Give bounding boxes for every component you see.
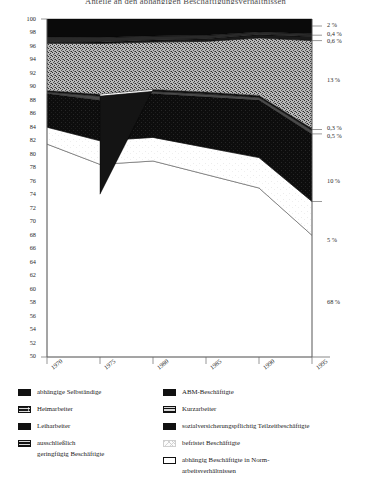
legend-swatch-kurzarbeiter bbox=[163, 406, 176, 413]
y-tick-label: 100 bbox=[14, 16, 36, 22]
legend-item-abhaengige-selbstaendige: abhängige Selbständige bbox=[18, 386, 168, 403]
value-label-normarbeit: 68 % bbox=[327, 299, 340, 305]
legend-label: ausschließlich bbox=[37, 437, 76, 448]
legend-item-normarbeitsverhaeltnisse: abhängig Beschäftigte in Norm- arbeitsve… bbox=[163, 454, 368, 482]
y-tick-label: 68 bbox=[14, 232, 36, 238]
y-tick-label: 60 bbox=[14, 286, 36, 292]
legend-swatch-teilzeitbeschaeftigte bbox=[163, 423, 176, 430]
legend-swatch-abm-beschaeftigte bbox=[163, 389, 176, 396]
legend-item-leiharbeiter: Leiharbeiter bbox=[18, 420, 168, 437]
y-tick-label: 58 bbox=[14, 299, 36, 305]
y-tick-label: 86 bbox=[14, 110, 36, 116]
legend-swatch-normarbeitsverhaeltnisse bbox=[163, 457, 176, 464]
legend-label: befristet Beschäftigte bbox=[182, 437, 240, 448]
legend-item-kurzarbeiter: Kurzarbeiter bbox=[163, 403, 368, 420]
legend-item-befristet-beschaeftigte: befristet Beschäftigte bbox=[163, 437, 368, 454]
legend-swatch-heimarbeiter bbox=[18, 406, 31, 413]
y-tick-label: 90 bbox=[14, 83, 36, 89]
y-tick-label: 62 bbox=[14, 272, 36, 278]
legend-swatch-befristet-beschaeftigte bbox=[163, 440, 176, 447]
y-tick-label: 64 bbox=[14, 259, 36, 265]
y-tick-label: 70 bbox=[14, 218, 36, 224]
legend-swatch-abhaengige-selbstaendige bbox=[18, 389, 31, 396]
y-tick-label: 80 bbox=[14, 151, 36, 157]
legend-label: abhängig Beschäftigte in Norm- bbox=[182, 454, 269, 465]
y-tick-label: 98 bbox=[14, 29, 36, 35]
y-tick-label: 54 bbox=[14, 326, 36, 332]
value-label-kurzarbeiter: 0,5 % bbox=[327, 133, 342, 139]
legend-label-cont: arbeitsverhältnissen bbox=[182, 465, 236, 476]
y-tick-label: 94 bbox=[14, 56, 36, 62]
legend-column-left: abhängige Selbständige Heimarbeiter Leih… bbox=[18, 386, 168, 465]
legend-label: sozialversicherungspflichtig Teilzeitbes… bbox=[182, 420, 309, 431]
legend-item-heimarbeiter: Heimarbeiter bbox=[18, 403, 168, 420]
legend-item-teilzeitbeschaeftigte: sozialversicherungspflichtig Teilzeitbes… bbox=[163, 420, 368, 437]
chart-plot-area: 100 98 96 94 92 90 88 86 84 82 80 78 76 … bbox=[0, 0, 371, 380]
chart-legend: abhängige Selbständige Heimarbeiter Leih… bbox=[0, 386, 371, 488]
value-label-leiharbeiter: 0,6 % bbox=[327, 38, 342, 44]
legend-label: Leiharbeiter bbox=[37, 420, 70, 431]
stacked-area-svg bbox=[0, 0, 371, 380]
legend-item-abm-beschaeftigte: ABM-Beschäftigte bbox=[163, 386, 368, 403]
y-tick-label: 88 bbox=[14, 97, 36, 103]
y-tick-label: 52 bbox=[14, 340, 36, 346]
y-tick-label: 50 bbox=[14, 353, 36, 359]
y-tick-label: 78 bbox=[14, 164, 36, 170]
legend-column-right: ABM-Beschäftigte Kurzarbeiter sozialvers… bbox=[163, 386, 368, 482]
y-tick-label: 92 bbox=[14, 70, 36, 76]
y-tick-label: 84 bbox=[14, 124, 36, 130]
legend-label: ABM-Beschäftigte bbox=[182, 386, 234, 397]
legend-swatch-leiharbeiter bbox=[18, 423, 31, 430]
value-label-selbstaendige: 2 % bbox=[327, 22, 337, 28]
y-tick-label: 66 bbox=[14, 245, 36, 251]
legend-label-cont: geringfügig Beschäftigte bbox=[37, 448, 104, 459]
legend-label: Heimarbeiter bbox=[37, 403, 73, 414]
legend-label: Kurzarbeiter bbox=[182, 403, 216, 414]
y-tick-label: 96 bbox=[14, 43, 36, 49]
y-tick-label: 72 bbox=[14, 205, 36, 211]
value-label-abm: 0,3 % bbox=[327, 125, 342, 131]
legend-label: abhängige Selbständige bbox=[37, 386, 101, 397]
legend-swatch-geringfuegig-beschaeftigte bbox=[18, 440, 31, 447]
legend-item-geringfuegig-beschaeftigte: ausschließlich geringfügig Beschäftigte bbox=[18, 437, 168, 465]
y-tick-label: 74 bbox=[14, 191, 36, 197]
y-tick-label: 56 bbox=[14, 313, 36, 319]
value-label-teilzeit: 10 % bbox=[327, 178, 340, 184]
value-label-geringfuegig: 13 % bbox=[327, 77, 340, 83]
y-tick-label: 76 bbox=[14, 178, 36, 184]
y-tick-label: 82 bbox=[14, 137, 36, 143]
value-label-befristet: 5 % bbox=[327, 237, 337, 243]
